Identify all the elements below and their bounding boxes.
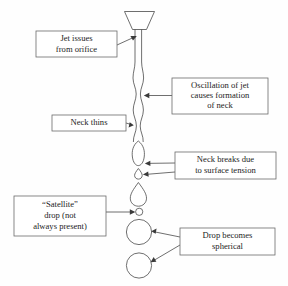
callout-neck-thins[interactable]: Neck thins [52, 115, 126, 131]
leader-neck-breaks-lower [143, 171, 175, 176]
detaching-blob [132, 141, 144, 166]
leader-oscillation [144, 93, 172, 98]
leader-neck-breaks-upper [145, 161, 175, 166]
callout-neck-thins-line-1: Neck thins [71, 117, 109, 127]
callout-satellite-drop[interactable]: “Satellite” drop (not always present) [14, 196, 106, 236]
callout-oscillation-line-1: Oscillation of jet [191, 80, 249, 90]
callout-oscillation-line-3: of neck [207, 100, 233, 110]
callout-satellite-line-1: “Satellite” [42, 199, 78, 209]
callout-drop-spherical-line-2: spherical [212, 241, 244, 251]
diagram-canvas: Jet issues from orifice Oscillation of j… [0, 0, 288, 286]
callout-satellite-line-2: drop (not [44, 210, 76, 220]
jet-breakup-diagram: Jet issues from orifice Oscillation of j… [0, 0, 288, 286]
orifice-nozzle [125, 12, 155, 30]
callout-neck-breaks-line-1: Neck breaks due [197, 154, 254, 164]
satellite-droplet [136, 208, 143, 215]
callout-jet-issues-line-2: from orifice [56, 44, 97, 54]
spherical-drop-lower [126, 253, 151, 278]
small-teardrop [135, 169, 143, 180]
callout-drop-spherical-line-1: Drop becomes [203, 230, 254, 240]
callout-jet-issues[interactable]: Jet issues from orifice [36, 31, 117, 57]
spherical-drop-upper [126, 219, 151, 244]
leader-drop-lower [151, 245, 180, 262]
callout-drop-spherical[interactable]: Drop becomes spherical [180, 228, 275, 255]
leader-drop-upper [151, 228, 180, 237]
callout-neck-breaks[interactable]: Neck breaks due to surface tension [175, 152, 276, 179]
callout-neck-breaks-line-2: to surface tension [195, 165, 256, 175]
callout-oscillation[interactable]: Oscillation of jet causes formation of n… [172, 78, 268, 114]
callout-satellite-line-3: always present) [33, 221, 87, 231]
liquid-jet [133, 30, 144, 143]
callout-jet-issues-line-1: Jet issues [60, 33, 93, 43]
leader-satellite [106, 209, 135, 215]
leader-neck-thins [126, 122, 134, 127]
leader-jet-issues [117, 36, 137, 45]
large-teardrop [130, 183, 146, 207]
callout-oscillation-line-2: causes formation [191, 90, 250, 100]
